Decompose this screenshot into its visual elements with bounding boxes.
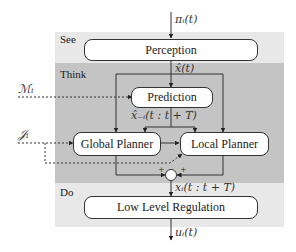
- local-planner-label: Local Planner: [191, 137, 258, 152]
- low-level-regulation-block: Low Level Regulation: [84, 196, 258, 219]
- state-estimate-label: x̂(t): [175, 62, 194, 75]
- sum-left-sign: +: [158, 165, 165, 174]
- prediction-output-label: x̂₋ᵢ(t : t + T): [131, 109, 197, 122]
- map-input-label: ℳᵢ: [18, 82, 33, 96]
- global-planner-label: Global Planner: [81, 137, 153, 152]
- trajectory-label: xᵢ(t : t + T): [175, 181, 235, 194]
- prediction-block: Prediction: [131, 87, 213, 108]
- summing-junction: [166, 170, 177, 181]
- objective-input-label: 𝒥ᵢ: [18, 127, 28, 141]
- prediction-label: Prediction: [147, 90, 196, 105]
- local-planner-block: Local Planner: [180, 132, 269, 156]
- low-level-regulation-label: Low Level Regulation: [117, 200, 225, 215]
- control-output-label: uᵢ(t): [175, 226, 197, 239]
- perception-label: Perception: [145, 43, 196, 58]
- sum-right-sign: +: [180, 165, 187, 174]
- perception-block: Perception: [84, 39, 258, 61]
- global-planner-block: Global Planner: [73, 132, 161, 156]
- input-pi-label: πᵢ(t): [175, 13, 197, 26]
